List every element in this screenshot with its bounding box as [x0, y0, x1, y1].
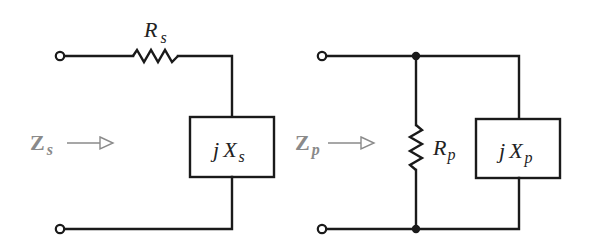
series-circuit: Rs jXs Zs [30, 17, 274, 233]
circuit-diagram: Rs jXs Zs Rp jXp Zp [0, 0, 596, 250]
series-impedance-label: Zs [30, 130, 53, 158]
parallel-impedance-label: Zp [295, 130, 320, 159]
parallel-resistor-label: Rp [432, 135, 455, 164]
series-top-wire-right [178, 56, 232, 117]
parallel-circuit: Rp jXp Zp [295, 52, 560, 233]
parallel-resistor-icon [410, 125, 422, 170]
parallel-bottom-wire [326, 178, 519, 229]
series-bottom-terminal-icon [56, 225, 64, 233]
series-top-terminal-icon [56, 52, 64, 60]
series-resistor-icon [133, 50, 178, 62]
parallel-bottom-terminal-icon [318, 225, 326, 233]
series-bottom-wire [64, 177, 232, 229]
series-resistor-label: Rs [143, 17, 167, 46]
series-arrow-icon [67, 137, 113, 149]
parallel-top-terminal-icon [318, 52, 326, 60]
parallel-bottom-node-icon [412, 225, 420, 233]
parallel-top-wire [326, 56, 519, 119]
parallel-top-node-icon [412, 52, 420, 60]
parallel-arrow-icon [328, 137, 374, 149]
